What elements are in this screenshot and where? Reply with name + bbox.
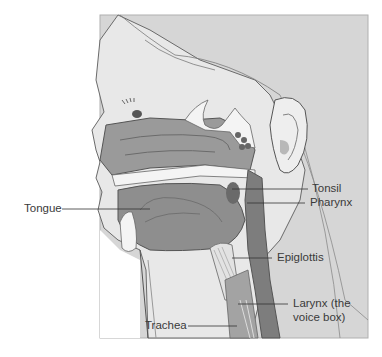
tonsil-shape [226, 182, 240, 204]
label-larynx-line2: voice box) [293, 311, 345, 324]
eye [132, 110, 142, 118]
label-trachea: Trachea [145, 319, 187, 332]
label-tonsil: Tonsil [312, 182, 341, 195]
label-larynx-line1: Larynx (the [293, 297, 351, 310]
label-tongue: Tongue [24, 202, 62, 215]
tongue-shape [118, 183, 245, 250]
anatomy-figure: Tonsil Pharynx Tongue Epiglottis Larynx … [0, 0, 382, 357]
label-epiglottis: Epiglottis [277, 251, 324, 264]
label-pharynx: Pharynx [310, 196, 352, 209]
jaw-bone [120, 212, 137, 252]
